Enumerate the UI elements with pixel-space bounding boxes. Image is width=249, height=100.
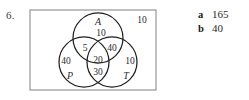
region-count-all-three: 20 [93,55,103,65]
region-count-a-and-t: 40 [107,43,117,53]
region-count-p-only: 40 [61,56,71,66]
region-count-outside: 10 [137,15,147,25]
set-label-a: A [94,16,102,27]
exercise-page: 6. A P T 10 40 10 5 40 30 20 10 [0,0,249,100]
region-count-a-only: 10 [96,28,106,38]
answer-key-b: b [198,23,208,34]
answer-key-a: a [198,9,208,20]
answer-value-a: 165 [212,8,229,20]
answers-list: a 165 b 40 [198,8,248,36]
region-count-p-and-t: 30 [93,67,103,77]
answer-row-a: a 165 [198,8,248,22]
region-count-t-only: 10 [125,56,135,66]
answer-value-b: 40 [212,22,223,34]
venn-diagram-figure: A P T 10 40 10 5 40 30 20 10 [29,9,157,91]
answer-row-b: b 40 [198,22,248,36]
question-number: 6. [6,9,15,21]
set-label-p: P [66,70,73,81]
region-count-a-and-p: 5 [83,43,88,53]
